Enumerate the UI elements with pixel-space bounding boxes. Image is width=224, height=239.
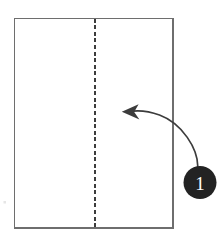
fold-step-diagram: 1 [0,0,224,239]
stray-speck-mark [4,201,7,204]
paper-sheet-rectangle [15,19,174,229]
diagram-canvas: 1 [0,0,224,239]
step-number-badge-label: 1 [195,173,205,194]
